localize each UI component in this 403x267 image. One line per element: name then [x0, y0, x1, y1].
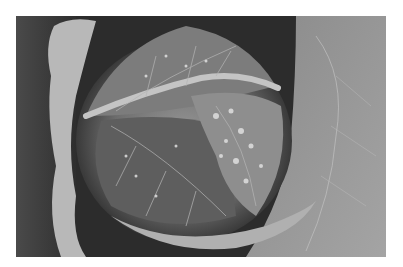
cabbage-illustration	[16, 16, 386, 257]
cabbage-photo: Black and white close-up photograph of a…	[16, 16, 386, 257]
